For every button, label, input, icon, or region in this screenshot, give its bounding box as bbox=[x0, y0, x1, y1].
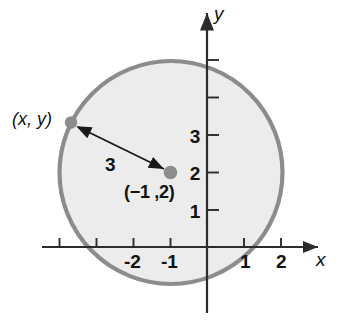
y-tick-label-1: 1 bbox=[180, 202, 200, 221]
y-tick-label-2: 2 bbox=[180, 164, 200, 183]
circle-graph-figure: y x -2 -1 1 2 1 2 3 (x, y) (−1 ,2) 3 bbox=[0, 0, 345, 332]
y-tick-label-3: 3 bbox=[180, 127, 200, 146]
graph-canvas bbox=[0, 0, 345, 332]
x-tick-label-neg1: -1 bbox=[161, 252, 178, 271]
y-axis-label: y bbox=[214, 4, 224, 23]
center-point-marker bbox=[164, 166, 178, 180]
x-tick-label-neg2: -2 bbox=[124, 252, 141, 271]
radius-length-label: 3 bbox=[105, 155, 116, 174]
x-tick-label-1: 1 bbox=[240, 252, 250, 271]
center-point-label: (−1 ,2) bbox=[124, 183, 174, 201]
x-axis-label: x bbox=[316, 250, 326, 269]
point-on-circle-marker bbox=[65, 116, 77, 128]
x-tick-label-2: 2 bbox=[276, 252, 286, 271]
point-on-circle-label: (x, y) bbox=[12, 110, 52, 128]
